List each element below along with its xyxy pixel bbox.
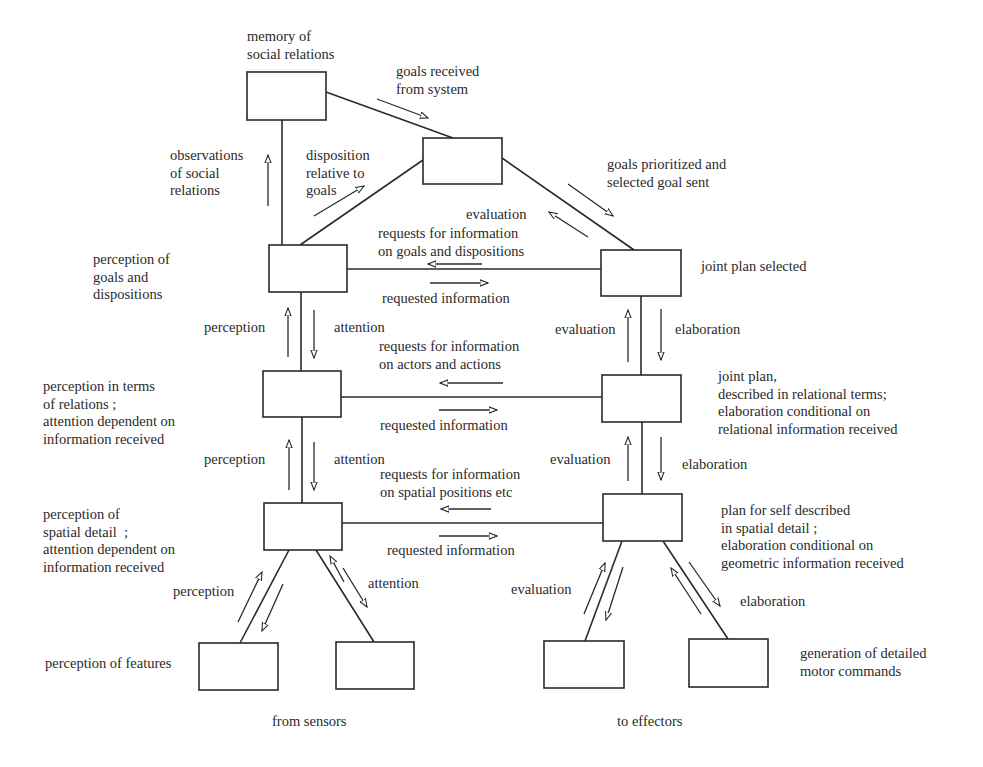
- label-evaluation-motor: evaluation: [511, 581, 571, 599]
- label-requests-goals: requests for information on goals and di…: [378, 225, 524, 260]
- joint-plan-relational-box: [602, 375, 681, 422]
- label-perception-of-features: perception of features: [45, 655, 171, 673]
- attention-features-down-arrow: [330, 556, 344, 582]
- label-generation-motor: generation of detailed motor commands: [800, 645, 926, 680]
- label-perception-upper: perception: [204, 319, 265, 337]
- label-elaboration-upper: elaboration: [675, 321, 740, 339]
- memory-to-goal-line: [326, 92, 453, 138]
- label-evaluation-lower: evaluation: [550, 451, 610, 469]
- memory-of-social-relations-box: [247, 72, 326, 120]
- evaluation-top-arrow: [549, 212, 588, 237]
- label-requested-info-top: requested information: [382, 290, 510, 308]
- label-requests-spatial: requests for information on spatial posi…: [380, 466, 520, 501]
- label-evaluation-top: evaluation: [466, 206, 526, 224]
- perception-features-arrow: [238, 572, 262, 622]
- label-goals-prioritized: goals prioritized and selected goal sent: [607, 156, 726, 191]
- label-perception-features: perception: [173, 583, 234, 601]
- evaluation-motor-down-arrow: [606, 567, 623, 620]
- elaboration-motor-down-arrow: [689, 562, 720, 606]
- label-goals-received: goals received from system: [396, 63, 479, 98]
- perception-relations-box: [263, 371, 341, 417]
- label-requested-info-middle: requested information: [380, 417, 508, 435]
- label-requested-info-bottom: requested information: [387, 542, 515, 560]
- label-attention-upper: attention: [334, 319, 385, 337]
- label-evaluation-upper: evaluation: [555, 321, 615, 339]
- label-from-sensors: from sensors: [272, 713, 347, 731]
- feature-perception-box-left: [199, 643, 278, 690]
- spatial-to-features-left-line: [240, 550, 289, 643]
- plan-to-motor-left-line: [585, 541, 622, 641]
- label-perception-spatial: perception of spatial detail ; attention…: [43, 506, 175, 576]
- label-perception-lower: perception: [204, 451, 265, 469]
- motor-command-box-right: [689, 639, 768, 687]
- label-plan-for-self: plan for self described in spatial detai…: [721, 502, 904, 572]
- perception-spatial-box: [264, 503, 342, 550]
- plan-for-self-spatial-box: [603, 494, 682, 541]
- spatial-to-features-right-line: [316, 550, 374, 642]
- label-elaboration-motor: elaboration: [740, 593, 805, 611]
- label-joint-plan-selected: joint plan selected: [701, 258, 807, 276]
- label-requests-actors: requests for information on actors and a…: [379, 338, 519, 373]
- label-joint-plan-relational: joint plan, described in relational term…: [718, 368, 898, 438]
- joint-plan-selected-box: [601, 250, 681, 296]
- feature-perception-box-right: [336, 642, 414, 689]
- attention-features-up-arrow: [262, 584, 283, 631]
- label-memory-of-social-relations: memory of social relations: [247, 28, 334, 63]
- label-disposition: disposition relative to goals: [306, 147, 370, 200]
- label-perception-of-goals: perception of goals and dispositions: [93, 251, 170, 304]
- perception-of-goals-box: [269, 245, 347, 292]
- label-to-effectors: to effectors: [617, 713, 682, 731]
- label-attention-lower: attention: [334, 451, 385, 469]
- label-perception-relations: perception in terms of relations ; atten…: [43, 378, 175, 448]
- label-observations: observations of social relations: [170, 147, 243, 200]
- label-attention-features: attention: [368, 575, 419, 593]
- goal-selection-box: [423, 138, 502, 184]
- evaluation-motor-arrow: [584, 563, 605, 614]
- plan-to-motor-right-line: [663, 541, 728, 639]
- motor-command-box-left: [544, 641, 624, 688]
- goals-received-arrow: [377, 99, 428, 118]
- label-elaboration-lower: elaboration: [682, 456, 747, 474]
- attention-features-right-arrow: [343, 568, 367, 607]
